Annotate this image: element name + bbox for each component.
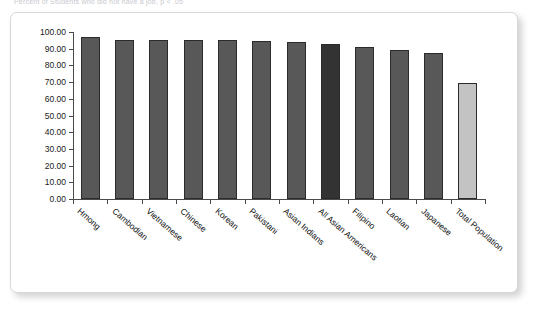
bar [218, 40, 237, 199]
x-axis-tick [416, 200, 417, 204]
y-axis-tick [69, 132, 73, 133]
y-axis-tick [69, 82, 73, 83]
y-axis-tick [69, 116, 73, 117]
plot-area: 100.0090.0080.0070.0060.0050.0040.0030.0… [73, 32, 485, 199]
x-axis-tick [313, 200, 314, 204]
bar [355, 47, 374, 199]
x-axis-tick [245, 200, 246, 204]
x-axis-category-label: Hmong [76, 206, 103, 232]
x-axis-tick [485, 200, 486, 204]
bar [81, 37, 100, 199]
x-axis-category-label: Cambodian [110, 206, 149, 242]
y-axis-tick-label: 100.00 [40, 27, 66, 37]
y-axis-tick [69, 65, 73, 66]
bar [184, 40, 203, 199]
x-axis-category-label: Filipino [350, 206, 377, 231]
x-axis-category-label: Chinese [179, 206, 209, 234]
y-axis-tick-label: 70.00 [45, 77, 66, 87]
x-axis-tick [176, 200, 177, 204]
y-axis-tick [69, 166, 73, 167]
x-axis-category-label: Japanese [419, 206, 453, 238]
y-axis-tick-label: 20.00 [45, 161, 66, 171]
x-axis-tick [279, 200, 280, 204]
x-axis-tick [210, 200, 211, 204]
y-axis-tick-label: 30.00 [45, 144, 66, 154]
x-axis-tick [107, 200, 108, 204]
clipped-title-text: Percent of Students who did not have a j… [14, 0, 344, 8]
bar [424, 53, 443, 199]
x-axis-category-label: All Asian Americans [316, 206, 379, 263]
y-axis-tick [69, 99, 73, 100]
x-axis-tick [348, 200, 349, 204]
bar [287, 42, 306, 199]
y-axis-tick-label: 10.00 [45, 177, 66, 187]
y-axis-tick [69, 49, 73, 50]
x-axis-category-label: Pakistani [247, 206, 280, 236]
y-axis-tick-label: 50.00 [45, 111, 66, 121]
x-axis-tick [73, 200, 74, 204]
x-axis-tick [451, 200, 452, 204]
x-axis-category-label: Korean [213, 206, 240, 232]
y-axis-tick-label: 0.00 [49, 194, 66, 204]
bar [458, 83, 477, 199]
x-axis-category-label: Laotian [385, 206, 413, 232]
bar [321, 44, 340, 199]
x-axis-tick [382, 200, 383, 204]
x-axis-labels: HmongCambodianVietnameseChineseKoreanPak… [73, 200, 486, 292]
bar [149, 40, 168, 199]
y-axis-tick [69, 182, 73, 183]
y-axis-tick-label: 40.00 [45, 127, 66, 137]
y-axis-tick-label: 60.00 [45, 94, 66, 104]
x-axis-category-label: Total Population [453, 206, 505, 253]
x-axis-tick [142, 200, 143, 204]
y-axis-tick-label: 80.00 [45, 60, 66, 70]
y-axis-tick [69, 32, 73, 33]
y-axis-tick-label: 90.00 [45, 44, 66, 54]
bar [115, 40, 134, 199]
y-axis-tick [69, 149, 73, 150]
bar [252, 41, 271, 199]
chart-card: 100.0090.0080.0070.0060.0050.0040.0030.0… [10, 12, 518, 293]
bar [390, 50, 409, 199]
